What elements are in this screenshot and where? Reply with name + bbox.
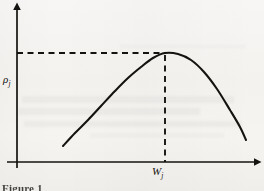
response-curve	[63, 53, 246, 146]
x-axis-label-symbol: W	[152, 165, 161, 177]
y-axis-arrow-icon	[13, 3, 21, 11]
figure-caption: Figure 1	[2, 183, 43, 191]
x-axis-arrow-icon	[254, 158, 262, 166]
plot-area	[0, 0, 264, 191]
scanned-figure: ρj Wj Figure 1	[0, 0, 264, 191]
x-axis-label: Wj	[152, 166, 163, 177]
y-axis-label: ρj	[3, 74, 10, 85]
y-axis-label-subscript: j	[8, 79, 10, 88]
